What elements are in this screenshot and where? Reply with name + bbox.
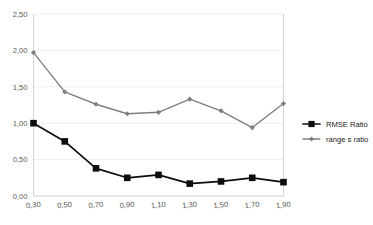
x-tick-label: 0,90: [119, 200, 135, 210]
data-point-marker: [93, 102, 98, 107]
series-markers: [30, 50, 287, 187]
data-point-marker: [280, 179, 287, 186]
x-tick-label: 1,10: [150, 200, 166, 210]
series-lines: [34, 53, 284, 184]
line-chart: 0,000,501,001,502,002,50 0,300,500,700,9…: [0, 0, 373, 225]
x-tick-label: 1,30: [182, 200, 198, 210]
series-line-range-s-ratio: [34, 53, 284, 128]
y-tick-label: 1,50: [13, 83, 28, 92]
legend-label: RMSE Ratio: [326, 120, 368, 129]
plot-axis-lines: [34, 14, 284, 196]
data-point-marker: [61, 138, 68, 145]
data-point-marker: [125, 111, 130, 116]
legend-swatch-marker: [308, 121, 314, 127]
data-point-marker: [156, 110, 161, 115]
data-point-marker: [124, 175, 131, 182]
data-point-marker: [218, 178, 225, 185]
chart-legend: RMSE Ratiorange s ratio: [303, 120, 368, 144]
chart-container: 0,000,501,001,502,002,50 0,300,500,700,9…: [0, 0, 373, 225]
data-point-marker: [155, 172, 162, 179]
data-point-marker: [187, 97, 192, 102]
legend-swatch-marker: [309, 137, 314, 142]
data-point-marker: [186, 180, 193, 187]
legend-label: range s ratio: [326, 135, 368, 144]
y-axis-tick-labels: 0,000,501,001,502,002,50: [13, 10, 28, 201]
data-point-marker: [249, 175, 256, 182]
data-point-marker: [30, 120, 37, 127]
y-tick-label: 0,00: [13, 192, 28, 201]
y-tick-label: 0,50: [13, 155, 28, 164]
x-axis-tick-labels: 0,300,500,700,901,101,301,501,701,90: [25, 200, 291, 210]
x-tick-label: 0,70: [88, 200, 104, 210]
data-point-marker: [93, 165, 100, 172]
data-point-marker: [218, 108, 223, 113]
y-tick-label: 2,00: [13, 46, 28, 55]
x-tick-label: 1,90: [275, 200, 291, 210]
x-tick-label: 1,70: [244, 200, 260, 210]
gridlines: [34, 14, 284, 196]
x-tick-label: 0,30: [25, 200, 41, 210]
y-tick-label: 1,00: [13, 119, 28, 128]
x-tick-label: 0,50: [57, 200, 73, 210]
x-tick-label: 1,50: [213, 200, 229, 210]
y-tick-label: 2,50: [13, 10, 28, 19]
